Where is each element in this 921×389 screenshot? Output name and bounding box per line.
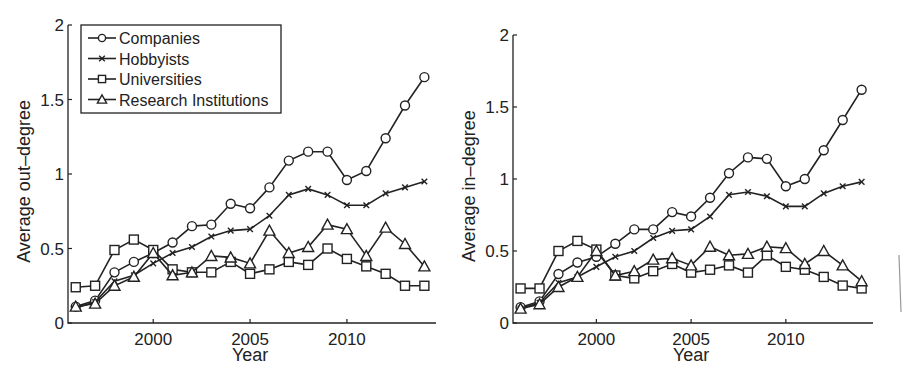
y-tick-label: 1 bbox=[500, 170, 509, 189]
square-marker-icon bbox=[91, 281, 100, 290]
square-marker-icon bbox=[781, 262, 790, 271]
y-tick-label: 1 bbox=[55, 165, 64, 184]
chart-figure: 00.511.52200020052010YearAverage out–deg… bbox=[0, 0, 921, 389]
triangle-marker-icon bbox=[761, 241, 772, 251]
circle-marker-icon bbox=[284, 156, 293, 165]
y-axis-title: Average out–degree bbox=[14, 100, 34, 263]
square-marker-icon bbox=[362, 262, 371, 271]
x-marker-icon bbox=[707, 214, 713, 220]
square-marker-icon bbox=[838, 281, 847, 290]
circle-marker-icon bbox=[98, 34, 105, 41]
square-marker-icon bbox=[129, 235, 138, 244]
x-tick-label: 2010 bbox=[767, 330, 805, 349]
y-tick-label: 0 bbox=[55, 314, 64, 333]
square-marker-icon bbox=[323, 244, 332, 253]
triangle-marker-icon bbox=[629, 266, 640, 276]
circle-marker-icon bbox=[706, 193, 715, 202]
x-marker-icon bbox=[267, 213, 273, 219]
series-research-institutions bbox=[70, 219, 430, 311]
x-marker-icon bbox=[594, 264, 600, 270]
square-marker-icon bbox=[304, 260, 313, 269]
series-line bbox=[76, 182, 425, 309]
square-marker-icon bbox=[819, 272, 828, 281]
square-marker-icon bbox=[554, 247, 563, 256]
circle-marker-icon bbox=[168, 238, 177, 247]
series-line bbox=[521, 182, 862, 309]
square-marker-icon bbox=[725, 261, 734, 270]
circle-marker-icon bbox=[110, 268, 119, 277]
circle-marker-icon bbox=[207, 220, 216, 229]
scan-artifact bbox=[899, 255, 901, 312]
square-marker-icon bbox=[381, 269, 390, 278]
y-tick-label: 1.5 bbox=[40, 91, 64, 110]
circle-marker-icon bbox=[129, 257, 138, 266]
triangle-marker-icon bbox=[380, 222, 391, 232]
square-marker-icon bbox=[246, 269, 255, 278]
square-marker-icon bbox=[535, 284, 544, 293]
circle-marker-icon bbox=[781, 182, 790, 191]
x-marker-icon bbox=[150, 261, 156, 267]
circle-marker-icon bbox=[838, 115, 847, 124]
circle-marker-icon bbox=[573, 258, 582, 267]
legend: CompaniesHobbyistsUniversitiesResearch I… bbox=[81, 25, 281, 113]
triangle-marker-icon bbox=[361, 250, 372, 260]
triangle-marker-icon bbox=[818, 246, 829, 256]
legend-label: Companies bbox=[119, 30, 200, 47]
y-tick-label: 2 bbox=[500, 26, 509, 45]
circle-marker-icon bbox=[362, 167, 371, 176]
y-tick-label: 0.5 bbox=[485, 242, 509, 261]
square-marker-icon bbox=[420, 281, 429, 290]
circle-marker-icon bbox=[246, 204, 255, 213]
out-degree-chart: 00.511.52200020052010YearAverage out–deg… bbox=[14, 16, 436, 365]
circle-marker-icon bbox=[187, 222, 196, 231]
x-tick-label: 2010 bbox=[328, 330, 366, 349]
circle-marker-icon bbox=[381, 134, 390, 143]
triangle-marker-icon bbox=[322, 219, 333, 229]
circle-marker-icon bbox=[762, 154, 771, 163]
circle-marker-icon bbox=[401, 101, 410, 110]
square-marker-icon bbox=[649, 267, 658, 276]
triangle-marker-icon bbox=[837, 260, 848, 270]
square-marker-icon bbox=[342, 254, 351, 263]
circle-marker-icon bbox=[323, 147, 332, 156]
x-tick-label: 2000 bbox=[134, 330, 172, 349]
circle-marker-icon bbox=[342, 175, 351, 184]
square-marker-icon bbox=[110, 245, 119, 254]
y-tick-label: 0.5 bbox=[40, 240, 64, 259]
legend-label: Research Institutions bbox=[119, 92, 268, 109]
square-marker-icon bbox=[284, 257, 293, 266]
square-marker-icon bbox=[573, 236, 582, 245]
triangle-marker-icon bbox=[705, 241, 716, 251]
circle-marker-icon bbox=[687, 212, 696, 221]
circle-marker-icon bbox=[611, 239, 620, 248]
circle-marker-icon bbox=[226, 199, 235, 208]
circle-marker-icon bbox=[857, 85, 866, 94]
x-tick-label: 2000 bbox=[577, 330, 615, 349]
square-marker-icon bbox=[706, 265, 715, 274]
circle-marker-icon bbox=[265, 183, 274, 192]
square-marker-icon bbox=[516, 284, 525, 293]
square-marker-icon bbox=[401, 281, 410, 290]
x-axis-title: Year bbox=[673, 345, 709, 365]
square-marker-icon bbox=[71, 283, 80, 292]
circle-marker-icon bbox=[743, 153, 752, 162]
square-marker-icon bbox=[98, 75, 105, 82]
y-tick-label: 1.5 bbox=[485, 98, 509, 117]
legend-label: Universities bbox=[119, 71, 202, 88]
circle-marker-icon bbox=[420, 73, 429, 82]
y-tick-label: 0 bbox=[500, 314, 509, 333]
triangle-marker-icon bbox=[264, 225, 275, 235]
circle-marker-icon bbox=[800, 175, 809, 184]
circle-marker-icon bbox=[725, 169, 734, 178]
circle-marker-icon bbox=[649, 225, 658, 234]
circle-marker-icon bbox=[630, 225, 639, 234]
y-tick-label: 2 bbox=[55, 16, 64, 35]
legend-label: Hobbyists bbox=[119, 51, 189, 68]
circle-marker-icon bbox=[819, 146, 828, 155]
circle-marker-icon bbox=[304, 147, 313, 156]
circle-marker-icon bbox=[668, 208, 677, 217]
square-marker-icon bbox=[207, 268, 216, 277]
y-axis-title: Average in–degree bbox=[459, 110, 479, 262]
square-marker-icon bbox=[743, 268, 752, 277]
square-marker-icon bbox=[762, 251, 771, 260]
